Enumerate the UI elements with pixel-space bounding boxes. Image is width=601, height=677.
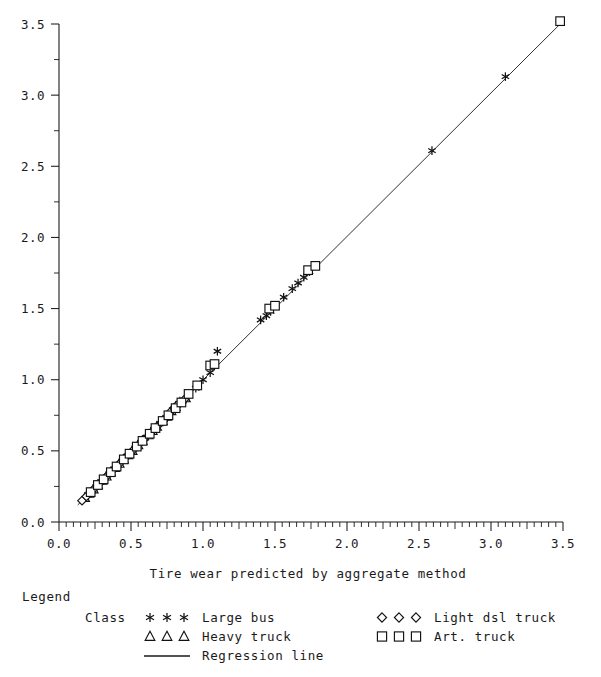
- marker-square-3-23: [556, 17, 565, 26]
- x-axis-tick-label: 1.5: [263, 536, 287, 551]
- y-axis-tick-label: 3.0: [21, 88, 45, 103]
- x-axis-tick-label: 2.0: [335, 536, 359, 551]
- x-axis-tick-label: 0.5: [119, 536, 143, 551]
- marker-square-legend-4-1: [394, 632, 403, 641]
- y-axis-tick-label: 1.0: [21, 372, 45, 387]
- x-axis-tick-label: 3.5: [551, 536, 575, 551]
- marker-square-3-22: [311, 262, 320, 271]
- marker-square-3-16: [193, 381, 202, 390]
- marker-square-legend-4-2: [411, 632, 420, 641]
- legend-heading: Legend: [22, 589, 71, 604]
- chart-canvas: 0.00.51.01.52.02.53.03.50.00.51.01.52.02…: [0, 0, 601, 677]
- marker-square-3-14: [177, 398, 186, 407]
- marker-square-3-18: [210, 360, 219, 369]
- scatter-plot-figure: 0.00.51.01.52.02.53.03.50.00.51.01.52.02…: [0, 0, 601, 677]
- legend-label: Regression line: [202, 648, 324, 663]
- x-axis-title: Tire wear predicted by aggregate method: [150, 566, 467, 581]
- y-axis-tick-label: 0.0: [21, 515, 45, 530]
- legend-label: Art. truck: [434, 629, 515, 644]
- x-axis-tick-label: 0.0: [47, 536, 71, 551]
- y-axis-tick-label: 0.5: [21, 443, 45, 458]
- y-axis-tick-label: 3.5: [21, 17, 45, 32]
- marker-square-legend-4-0: [377, 632, 386, 641]
- y-axis-tick-label: 2.5: [21, 159, 45, 174]
- legend-class-label: Class: [85, 610, 126, 625]
- x-axis-tick-label: 2.5: [407, 536, 431, 551]
- legend-label: Large bus: [202, 610, 275, 625]
- x-axis-tick-label: 1.0: [191, 536, 215, 551]
- x-axis-tick-label: 3.0: [479, 536, 503, 551]
- legend-label: Heavy truck: [202, 629, 291, 644]
- marker-square-3-20: [271, 301, 280, 310]
- marker-square-3-15: [184, 390, 193, 399]
- y-axis-tick-label: 2.0: [21, 230, 45, 245]
- y-axis-tick-label: 1.5: [21, 301, 45, 316]
- legend-label: Light dsl truck: [434, 610, 556, 625]
